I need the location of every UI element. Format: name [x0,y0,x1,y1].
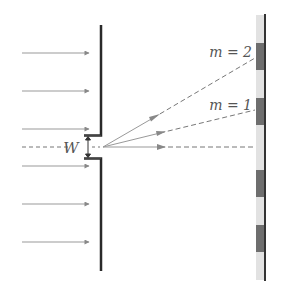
barrier-top [84,25,101,136]
order-label-m1: m = 1 [209,97,252,113]
single-slit-diagram: W m = 2 m = 1 [0,0,292,293]
dark-band-m2 [256,43,264,70]
order-label-m2: m = 2 [209,44,252,60]
ray-m1-dashed [160,110,255,133]
barrier-bottom [84,159,101,272]
barrier [84,25,101,271]
dark-band-m-2 [256,225,264,252]
arrowhead-icon [156,131,166,136]
dark-band-m-1 [256,170,264,197]
ray-m2-solid [103,118,153,147]
slit-width-indicator [86,137,91,158]
ray-arrowheads [149,114,166,150]
slit-width-label: W [63,139,80,157]
arrowhead-icon [149,114,160,122]
ray-m1-solid [103,133,160,147]
dark-band-m1 [256,98,264,125]
arrowhead-icon [157,144,166,150]
